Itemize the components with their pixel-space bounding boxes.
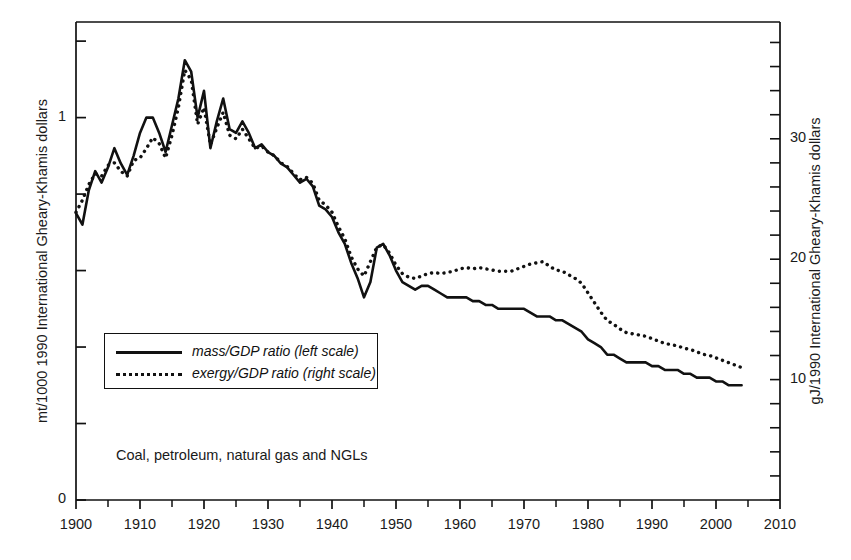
y-tick-label-right: 30 [790, 129, 830, 145]
x-tick-label: 1940 [302, 516, 362, 532]
x-tick-label: 1920 [174, 516, 234, 532]
x-tick-label: 1930 [238, 516, 298, 532]
x-tick-label: 1990 [622, 516, 682, 532]
y-tick-label-left: 1 [32, 108, 66, 124]
y-tick-label-left: 0 [32, 490, 66, 506]
y-tick-label-right: 10 [790, 370, 830, 386]
legend-item-mass: mass/GDP ratio (left scale) [105, 341, 377, 363]
chart-annotation: Coal, petroleum, natural gas and NGLs [116, 447, 367, 463]
x-tick-label: 1950 [366, 516, 426, 532]
chart-legend: mass/GDP ratio (left scale) exergy/GDP r… [104, 333, 378, 389]
legend-line-dotted-icon [116, 373, 182, 376]
x-tick-label: 1980 [558, 516, 618, 532]
chart-canvas [0, 0, 851, 560]
x-tick-label: 2010 [750, 516, 810, 532]
legend-label-exergy: exergy/GDP ratio (right scale) [192, 365, 376, 381]
legend-item-exergy: exergy/GDP ratio (right scale) [105, 363, 377, 385]
x-tick-label: 1910 [110, 516, 170, 532]
x-tick-label: 1960 [430, 516, 490, 532]
chart-figure: mt/1000 1990 International Gheary-Khamis… [0, 0, 851, 560]
x-tick-label: 2000 [686, 516, 746, 532]
x-tick-label: 1900 [46, 516, 106, 532]
legend-line-solid-icon [116, 351, 182, 354]
legend-label-mass: mass/GDP ratio (left scale) [192, 343, 359, 359]
y-tick-label-right: 20 [790, 249, 830, 265]
x-tick-label: 1970 [494, 516, 554, 532]
